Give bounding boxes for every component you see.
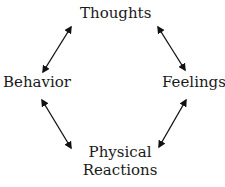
arrow-behavior-physical [42,100,71,148]
arrow-thoughts-feelings [158,27,185,70]
node-behavior: Behavior [3,73,71,91]
node-thoughts: Thoughts [80,4,151,22]
node-physical-reactions: Physical Reactions [0,143,225,179]
node-physical-line2: Reactions [0,161,225,179]
node-physical-line1: Physical [0,143,225,161]
cognitive-model-diagram: Thoughts Behavior Feelings Physical Reac… [0,0,225,187]
node-feelings: Feelings [162,73,225,91]
arrow-behavior-thoughts [43,27,71,72]
arrow-feelings-physical [159,100,186,147]
